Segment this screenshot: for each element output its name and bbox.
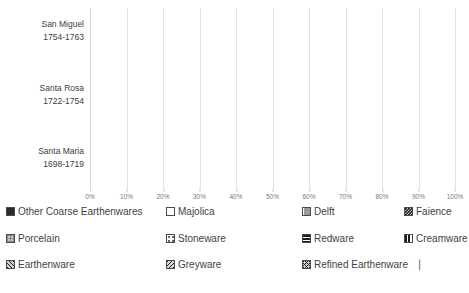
x-tick-mark xyxy=(90,188,91,192)
x-axis: 0%10%20%30%40%50%60%70%80%90%100% xyxy=(90,188,455,204)
category-name: Santa Rosa xyxy=(0,82,84,95)
legend-item-creamware[interactable]: Creamware xyxy=(404,233,468,244)
category-label-0: San Miguel 1754-1763 xyxy=(0,18,84,44)
legend-swatch-icon xyxy=(404,234,413,243)
bar-row-1 xyxy=(90,78,455,111)
legend-label: Greyware xyxy=(178,259,221,270)
legend-swatch-icon xyxy=(6,260,15,269)
plot-area xyxy=(90,8,455,188)
legend-item-delft[interactable]: Delft xyxy=(302,206,335,217)
legend-swatch-icon xyxy=(404,207,413,216)
category-label-2: Santa Maria 1698-1719 xyxy=(0,145,84,171)
legend-label: Other Coarse Earthenwares xyxy=(18,206,143,217)
legend-label: Refined Earthenware xyxy=(314,259,408,270)
x-tick-label-0: 0% xyxy=(85,188,94,200)
x-tick-mark xyxy=(236,188,237,192)
category-date-range: 1754-1763 xyxy=(0,31,84,44)
legend-item-earthenware[interactable]: Earthenware xyxy=(6,259,75,270)
x-tick-mark xyxy=(309,188,310,192)
legend-label: Redware xyxy=(314,233,354,244)
category-date-range: 1722-1754 xyxy=(0,95,84,108)
chart-legend: Other Coarse EarthenwaresMajolicaDelftFa… xyxy=(6,206,464,290)
category-label-1: Santa Rosa 1722-1754 xyxy=(0,82,84,108)
stacked-bar-chart: San Miguel 1754-1763 Santa Rosa 1722-175… xyxy=(0,0,469,293)
legend-swatch-icon xyxy=(302,207,311,216)
legend-item-stoneware[interactable]: Stoneware xyxy=(166,233,226,244)
x-tick-label-80: 80% xyxy=(375,188,388,200)
x-tick-label-40: 40% xyxy=(229,188,242,200)
legend-item-faience[interactable]: Faience xyxy=(404,206,452,217)
legend-row-1: PorcelainStonewareRedwareCreamware xyxy=(6,233,464,259)
legend-item-redware[interactable]: Redware xyxy=(302,233,354,244)
legend-swatch-icon xyxy=(6,234,15,243)
legend-label: Earthenware xyxy=(18,259,75,270)
bar-row-0 xyxy=(90,14,455,47)
legend-swatch-icon xyxy=(166,234,175,243)
legend-item-refined-earthenware[interactable]: Refined Earthenware▕ xyxy=(302,259,420,270)
x-tick-label-10: 10% xyxy=(120,188,133,200)
x-tick-mark xyxy=(418,188,419,192)
legend-swatch-icon xyxy=(6,207,15,216)
legend-swatch-icon xyxy=(166,207,175,216)
legend-overflow-indicator: ▕ xyxy=(413,260,420,270)
legend-row-0: Other Coarse EarthenwaresMajolicaDelftFa… xyxy=(6,206,464,232)
x-tick-mark xyxy=(345,188,346,192)
legend-label: Porcelain xyxy=(18,233,60,244)
legend-swatch-icon xyxy=(302,234,311,243)
legend-item-porcelain[interactable]: Porcelain xyxy=(6,233,60,244)
category-date-range: 1698-1719 xyxy=(0,158,84,171)
x-tick-label-20: 20% xyxy=(156,188,169,200)
legend-label: Majolica xyxy=(178,206,215,217)
bar-row-2 xyxy=(90,141,455,174)
x-tick-mark xyxy=(163,188,164,192)
x-tick-mark xyxy=(455,188,456,192)
legend-item-majolica[interactable]: Majolica xyxy=(166,206,215,217)
legend-item-other-coarse-earthenwares[interactable]: Other Coarse Earthenwares xyxy=(6,206,143,217)
x-tick-label-90: 90% xyxy=(412,188,425,200)
legend-row-2: EarthenwareGreywareRefined Earthenware▕ xyxy=(6,259,464,285)
legend-swatch-icon xyxy=(166,260,175,269)
legend-swatch-icon xyxy=(302,260,311,269)
x-tick-mark xyxy=(382,188,383,192)
category-name: Santa Maria xyxy=(0,145,84,158)
x-tick-mark xyxy=(126,188,127,192)
gridline-100 xyxy=(455,8,456,188)
legend-label: Delft xyxy=(314,206,335,217)
x-tick-label-50: 50% xyxy=(266,188,279,200)
legend-item-greyware[interactable]: Greyware xyxy=(166,259,221,270)
x-tick-label-100: 100% xyxy=(447,188,464,200)
legend-label: Faience xyxy=(416,206,452,217)
x-tick-label-60: 60% xyxy=(302,188,315,200)
category-name: San Miguel xyxy=(0,18,84,31)
legend-label: Stoneware xyxy=(178,233,226,244)
legend-label: Creamware xyxy=(416,233,468,244)
x-tick-label-70: 70% xyxy=(339,188,352,200)
x-tick-mark xyxy=(199,188,200,192)
x-tick-label-30: 30% xyxy=(193,188,206,200)
x-tick-mark xyxy=(272,188,273,192)
